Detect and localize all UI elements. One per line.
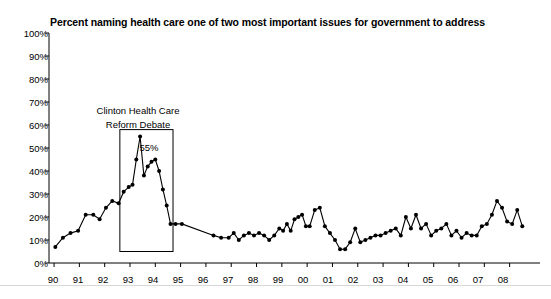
plot-area (0, 0, 551, 299)
chart-container: Percent naming health care one of two mo… (0, 0, 551, 299)
x-axis-ticks (54, 263, 510, 267)
bottom-divider (0, 285, 551, 286)
y-axis-ticks (45, 33, 49, 263)
annotation-box (120, 130, 173, 252)
data-line (55, 137, 522, 250)
